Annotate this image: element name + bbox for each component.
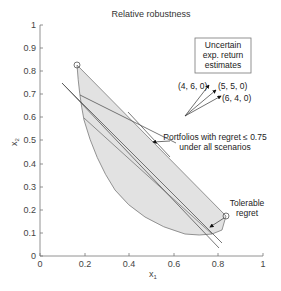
svg-text:0.2: 0.2 — [79, 259, 92, 269]
box-line-3: estimates — [205, 60, 241, 70]
svg-text:0.8: 0.8 — [23, 66, 36, 76]
svg-text:1: 1 — [31, 20, 36, 30]
portfolio-label-2: under all scenarios — [179, 142, 250, 152]
chart-title: Relative robustness — [111, 9, 191, 19]
svg-text:0.9: 0.9 — [23, 43, 36, 53]
portfolio-label-1: Portfolios with regret ≤ 0.75 — [163, 132, 267, 142]
tolerable-label-2: regret — [236, 208, 259, 218]
y-axis-label: x2 — [9, 138, 20, 147]
svg-text:0.3: 0.3 — [23, 182, 36, 192]
svg-text:0.4: 0.4 — [123, 259, 136, 269]
x-tick-labels: 0 0.2 0.4 0.6 0.8 1 — [37, 259, 265, 269]
vector-label-2: (5, 5, 0) — [218, 81, 247, 91]
tolerable-label-1: Tolerable — [230, 198, 265, 208]
box-line-2: exp. return — [203, 50, 244, 60]
svg-text:1: 1 — [260, 259, 265, 269]
vector-label-3: (6, 4, 0) — [222, 93, 251, 103]
x-ticks — [40, 253, 263, 256]
svg-text:0.8: 0.8 — [212, 259, 225, 269]
svg-text:0.6: 0.6 — [23, 112, 36, 122]
svg-text:0: 0 — [31, 251, 36, 261]
scenario-line-2 — [62, 83, 222, 243]
vector-label-1: (4, 6, 0) — [178, 81, 207, 91]
y-ticks — [40, 25, 43, 256]
x-axis-label: x1 — [149, 269, 158, 280]
svg-text:0.5: 0.5 — [23, 135, 36, 145]
scenario-line-1 — [62, 83, 219, 248]
svg-text:0.1: 0.1 — [23, 228, 36, 238]
box-line-1: Uncertain — [205, 40, 242, 50]
vector-arrow-3 — [185, 96, 221, 116]
svg-text:0.4: 0.4 — [23, 159, 36, 169]
svg-text:0.2: 0.2 — [23, 205, 36, 215]
y-tick-labels: 0 0.1 0.2 0.3 0.4 0.5 0.6 0.7 0.8 0.9 1 — [23, 20, 36, 261]
svg-text:0.7: 0.7 — [23, 89, 36, 99]
relative-robustness-chart: Relative robustness 0 0.1 0.2 0.3 0.4 0.… — [0, 0, 281, 291]
svg-text:0.6: 0.6 — [168, 259, 181, 269]
svg-text:0: 0 — [37, 259, 42, 269]
vector-arrow-2 — [185, 90, 216, 116]
